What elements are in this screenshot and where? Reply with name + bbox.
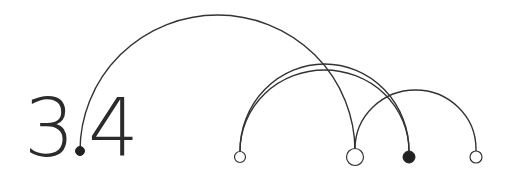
hollow-node (235, 152, 246, 163)
version-major: 3 (24, 82, 75, 175)
filled-node (403, 151, 415, 163)
decimal-point-node (76, 147, 85, 156)
arc-group (80, 15, 476, 152)
connector-arc (240, 70, 409, 152)
hollow-node (347, 149, 364, 166)
version-minor: 4 (88, 82, 139, 175)
version-diagram: 3 4 (0, 0, 506, 178)
connector-arc (355, 90, 476, 151)
connector-arc (240, 64, 409, 152)
hollow-node (470, 151, 482, 163)
